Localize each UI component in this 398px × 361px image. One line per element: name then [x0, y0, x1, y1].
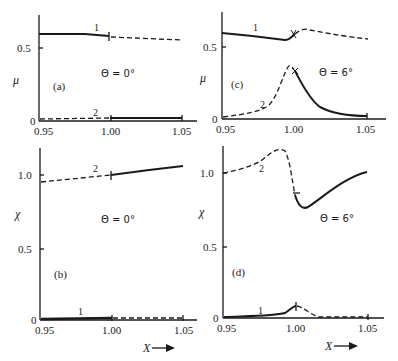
x-tick-label: 1.05	[356, 123, 376, 135]
y-tick-label: 0.5	[203, 41, 217, 53]
x-tick-label: 1.00	[101, 125, 121, 137]
y-axis-label: χ	[198, 205, 205, 219]
curve-label-2: 2	[93, 163, 98, 174]
marker-cross	[292, 68, 298, 74]
x-axis-label: X	[142, 341, 151, 355]
panel-label: (c)	[231, 78, 244, 91]
x-tick-label: 1.05	[358, 322, 378, 334]
curve-2-dashed	[40, 118, 110, 119]
curve-label-2: 2	[260, 99, 265, 110]
panel-label: (a)	[53, 80, 66, 93]
x-tick-label: 1.00	[286, 322, 306, 334]
y-tick-label: 1.0	[200, 167, 214, 179]
y-tick-label: 0.5	[17, 42, 31, 54]
x-tick-label: 0.95	[217, 322, 237, 334]
x-tick-label: 0.95	[35, 324, 55, 336]
theta-label: Θ = 0°	[101, 214, 135, 225]
panel-d: 1.0 0.5 0 0.95 1.00 1.05 χ (d) Θ = 6° 2 …	[198, 146, 384, 353]
panel-label: (d)	[232, 266, 245, 279]
curve-label-1: 1	[94, 22, 99, 33]
arrow-head-icon	[349, 342, 358, 350]
x-tick-label: 0.95	[216, 123, 236, 135]
curve-label-1: 1	[253, 22, 258, 33]
curve-1-dashed	[111, 37, 182, 40]
theta-label: Θ = 0°	[101, 68, 135, 79]
curve-1-dashed	[297, 306, 368, 317]
x-tick-label: 1.05	[174, 324, 194, 336]
x-axis-label: X	[324, 339, 333, 353]
x-tick-label: 1.00	[102, 324, 122, 336]
curve-label-1: 1	[78, 306, 83, 317]
figure-canvas: 0.5 0 0.95 1.00 1.05 μ (a) Θ = 0° 1 2 0.…	[0, 0, 398, 361]
curve-1-solid	[222, 33, 295, 40]
curve-label-2: 2	[259, 163, 264, 174]
theta-label: Θ = 6°	[320, 213, 354, 224]
curve-1-dashed	[295, 29, 368, 39]
x-tick-label: 1.05	[172, 125, 192, 137]
curve-2-dashed	[223, 66, 294, 117]
y-tick-label: 1.0	[18, 169, 32, 181]
arrow-head-icon	[166, 344, 175, 352]
curve-2-solid	[295, 172, 367, 208]
curve-2-solid	[111, 166, 183, 175]
panel-label: (b)	[54, 268, 67, 281]
y-tick-label: 0.5	[18, 243, 32, 255]
curve-2-dashed	[41, 175, 111, 182]
panel-b: 1.0 0.5 0 0.95 1.00 1.05 χ (b) Θ = 0° 2 …	[14, 148, 197, 355]
x-tick-label: 1.00	[284, 123, 304, 135]
y-axis-label: μ	[12, 73, 19, 87]
y-axis-label: μ	[199, 71, 206, 85]
curve-1-solid	[39, 34, 109, 36]
y-tick-label: 0.5	[203, 241, 217, 253]
panel-a: 0.5 0 0.95 1.00 1.05 μ (a) Θ = 0° 1 2	[12, 15, 197, 137]
curve-label-1: 1	[258, 305, 263, 316]
curve-1-solid	[41, 318, 112, 319]
y-axis-label: χ	[14, 207, 21, 221]
theta-label: Θ = 6°	[319, 67, 353, 78]
curve-label-2: 2	[93, 107, 98, 118]
panel-c: 0.5 0 0.95 1.00 1.05 μ (c) Θ = 6° 1 2	[199, 12, 386, 135]
x-tick-label: 0.95	[34, 125, 54, 137]
